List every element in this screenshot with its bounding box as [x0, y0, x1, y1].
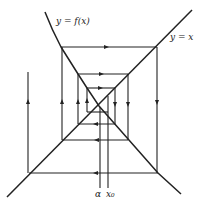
arrow-right-icon [104, 45, 109, 49]
curve-label: y = f(x) [56, 16, 90, 26]
alpha-label: α [95, 189, 101, 199]
arrow-up-icon [60, 99, 64, 104]
arrow-up-icon [85, 98, 89, 103]
line-label: y = x [170, 32, 193, 42]
function-curve [45, 12, 181, 194]
arrow-down-icon [113, 102, 117, 107]
arrow-right-icon [99, 72, 104, 76]
arrow-left-icon [93, 171, 98, 175]
arrow-right-icon [98, 86, 103, 90]
arrow-up-icon [26, 99, 30, 104]
arrow-left-icon [94, 138, 99, 142]
arrow-down-icon [126, 102, 130, 107]
arrow-down-icon [155, 100, 159, 105]
arrow-up-icon [76, 99, 80, 104]
arrow-left-icon [93, 122, 98, 126]
x0-label: x₀ [106, 189, 115, 199]
